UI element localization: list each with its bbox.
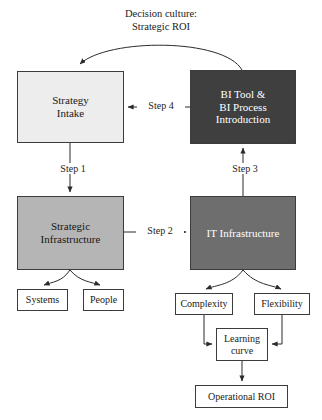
node-strategic-infrastructure-label: Strategic Infrastructure bbox=[39, 220, 103, 246]
process-diagram: Decision culture: Strategic ROI Strategy… bbox=[0, 0, 322, 420]
node-operational-roi-label: Operational ROI bbox=[206, 391, 277, 403]
edge-it-to-flexibility bbox=[243, 270, 281, 289]
node-systems[interactable]: Systems bbox=[17, 289, 68, 311]
node-people-label: People bbox=[88, 294, 119, 306]
decision-culture-caption: Decision culture: Strategic ROI bbox=[88, 8, 234, 33]
edge-strategic-to-systems bbox=[44, 270, 70, 285]
node-complexity-label: Complexity bbox=[178, 298, 229, 310]
node-strategic-infrastructure[interactable]: Strategic Infrastructure bbox=[17, 196, 124, 270]
edge-label-step2: Step 2 bbox=[136, 225, 184, 236]
node-operational-roi[interactable]: Operational ROI bbox=[195, 385, 288, 408]
node-complexity[interactable]: Complexity bbox=[175, 293, 233, 315]
edge-label-step1: Step 1 bbox=[48, 163, 98, 174]
edge-label-step3: Step 3 bbox=[220, 163, 270, 174]
edge-label-step4: Step 4 bbox=[137, 100, 185, 111]
node-flexibility-label: Flexibility bbox=[259, 298, 305, 310]
node-flexibility[interactable]: Flexibility bbox=[254, 293, 310, 315]
node-it-infrastructure-label: IT Infrastructure bbox=[205, 227, 282, 240]
edge-strategic-to-people bbox=[70, 270, 100, 285]
node-strategy-intake[interactable]: Strategy Intake bbox=[17, 71, 124, 143]
node-learning-curve-label: Learning curve bbox=[222, 333, 262, 357]
edge-it-to-complexity bbox=[206, 270, 243, 289]
node-bi-tool-label: BI Tool & BI Process Introduction bbox=[214, 88, 272, 127]
node-learning-curve[interactable]: Learning curve bbox=[216, 328, 268, 361]
node-strategy-intake-label: Strategy Intake bbox=[50, 94, 91, 120]
edge-decision-culture-arc bbox=[80, 45, 242, 70]
node-systems-label: Systems bbox=[24, 294, 61, 306]
edge-flexibility-to-learning bbox=[272, 315, 282, 344]
node-people[interactable]: People bbox=[83, 289, 124, 311]
node-it-infrastructure[interactable]: IT Infrastructure bbox=[190, 196, 296, 270]
edge-complexity-to-learning bbox=[204, 315, 212, 344]
node-bi-tool-bi-process-introduction[interactable]: BI Tool & BI Process Introduction bbox=[190, 70, 296, 144]
